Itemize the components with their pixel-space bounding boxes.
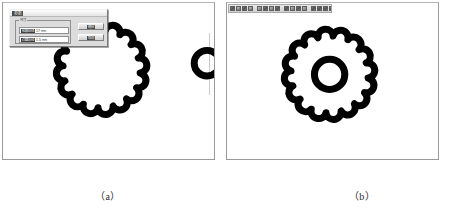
scalloped-gear-outline-path [284, 29, 374, 119]
cancel-button[interactable]: 取消 [78, 34, 104, 41]
figure-container: 参数 尺寸 轮廓半径 17 mm 凸圆半径 1.5 mm [0, 0, 452, 218]
dialog-titlebar[interactable]: 参数 [10, 10, 107, 17]
inner-ring-path [314, 59, 344, 89]
dialog-body: 尺寸 轮廓半径 17 mm 凸圆半径 1.5 mm 确定 [10, 17, 107, 47]
caption-panel-a: （a） [68, 188, 148, 203]
small-ring-path [194, 50, 214, 76]
dialog-title: 参数 [12, 11, 23, 16]
cancel-button-label: 取消 [87, 36, 95, 40]
confirm-button-label: 确定 [87, 25, 95, 29]
panel-b [226, 2, 439, 160]
panel-b-drawing-canvas [227, 3, 438, 159]
contour-radius-unit: mm [41, 29, 46, 33]
confirm-button[interactable]: 确定 [78, 23, 104, 30]
contour-radius-field[interactable]: 轮廓半径 17 mm [19, 27, 69, 34]
panel-a: 参数 尺寸 轮廓半径 17 mm 凸圆半径 1.5 mm [2, 2, 215, 160]
dimension-groupbox: 尺寸 轮廓半径 17 mm 凸圆半径 1.5 mm [15, 20, 71, 44]
parameter-dialog[interactable]: 参数 尺寸 轮廓半径 17 mm 凸圆半径 1.5 mm [9, 9, 108, 47]
caption-panel-b: （b） [322, 188, 402, 203]
lobe-radius-field[interactable]: 凸圆半径 1.5 mm [19, 36, 69, 43]
contour-radius-value: 17 [36, 29, 40, 33]
lobe-radius-label: 凸圆半径 [21, 38, 35, 42]
lobe-radius-unit: mm [42, 38, 47, 42]
dimension-groupbox-label: 尺寸 [19, 18, 27, 23]
lobe-radius-value: 1.5 [36, 38, 41, 42]
contour-radius-label: 轮廓半径 [21, 29, 35, 33]
